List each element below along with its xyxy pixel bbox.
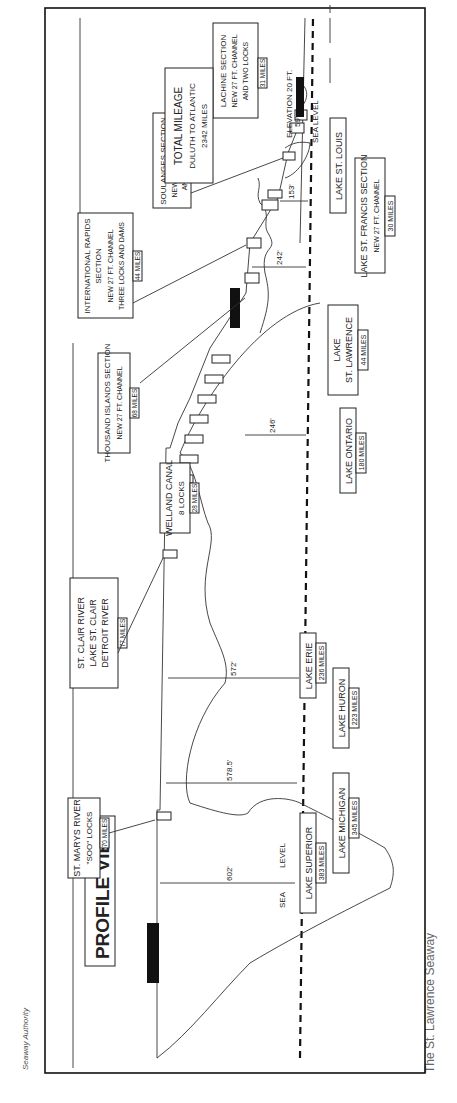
upper-label-welland: WELLAND CANAL 8 LOCKS 28 MILES — [160, 460, 199, 536]
lake-label-st-francis: LAKE ST. FRANCIS SECTION NEW 27 FT. CHAN… — [355, 154, 395, 277]
svg-text:SECTION: SECTION — [94, 248, 103, 284]
svg-text:NEW 27 FT. CHANNEL: NEW 27 FT. CHANNEL — [116, 366, 123, 439]
svg-text:LAKE ST. FRANCIS SECTION: LAKE ST. FRANCIS SECTION — [359, 154, 369, 277]
height-superior: 602' — [225, 866, 234, 881]
lake-label-superior: LAKE SUPERIOR 383 MILES — [300, 813, 326, 913]
credit-text: Seaway Authority — [21, 1007, 30, 1070]
svg-text:LAKE ERIE: LAKE ERIE — [304, 643, 314, 690]
total-mileage-box: TOTAL MILEAGE DULUTH TO ATLANTIC 2342 MI… — [165, 68, 213, 183]
svg-text:"SOO" LOCKS: "SOO" LOCKS — [85, 812, 94, 865]
elevation-label: ELEVATION 20 FT. — [285, 70, 294, 138]
svg-text:180 MILES: 180 MILES — [358, 435, 365, 470]
svg-text:2342 MILES: 2342 MILES — [200, 104, 209, 148]
svg-text:LAKE ST. CLAIR: LAKE ST. CLAIR — [88, 599, 98, 667]
svg-text:LAKE HURON: LAKE HURON — [337, 679, 347, 738]
lake-label-ontario: LAKE ONTARIO 180 MILES — [340, 408, 366, 493]
svg-text:ST. LAWRENCE: ST. LAWRENCE — [344, 317, 354, 383]
svg-text:LAKE SUPERIOR: LAKE SUPERIOR — [304, 826, 314, 899]
ship-icon — [296, 77, 304, 117]
ship-icon — [147, 923, 159, 983]
svg-text:LAKE MICHIGAN: LAKE MICHIGAN — [337, 788, 347, 859]
lake-label-st-louis: LAKE ST. LOUIS — [330, 118, 346, 213]
svg-text:THOUSAND ISLANDS SECTION: THOUSAND ISLANDS SECTION — [103, 343, 112, 462]
svg-text:LAKE ST. LOUIS: LAKE ST. LOUIS — [334, 132, 344, 200]
sea-level-label-right: SEA LEVEL — [311, 100, 320, 143]
height-ontario: 246' — [268, 418, 277, 433]
svg-text:LACHINE SECTION: LACHINE SECTION — [219, 35, 228, 108]
svg-text:44 MILES: 44 MILES — [134, 251, 141, 280]
svg-text:NEW 27 FT. CHANNEL: NEW 27 FT. CHANNEL — [373, 179, 380, 252]
svg-text:LAKE ONTARIO: LAKE ONTARIO — [344, 418, 354, 484]
upper-label-lachine: LACHINE SECTION NEW 27 FT. CHANNEL AND T… — [213, 23, 267, 118]
svg-text:31 MILES: 31 MILES — [259, 58, 266, 87]
svg-text:DETROIT RIVER: DETROIT RIVER — [100, 598, 110, 668]
svg-text:AND TWO LOCKS: AND TWO LOCKS — [242, 41, 249, 100]
landscape-group: PROFILE VIEW 602' 578.5' 572' 246' 242' … — [45, 5, 425, 1073]
svg-text:NEW 27 FT. CHANNEL: NEW 27 FT. CHANNEL — [231, 34, 238, 107]
svg-text:ST. CLAIR RIVER: ST. CLAIR RIVER — [76, 596, 86, 669]
svg-text:INTERNATIONAL RAPIDS: INTERNATIONAL RAPIDS — [83, 218, 92, 313]
height-st-lawrence: 242' — [275, 250, 284, 265]
svg-text:68 MILES: 68 MILES — [131, 388, 138, 417]
svg-text:236 MILES: 236 MILES — [318, 645, 325, 680]
svg-text:LAKE: LAKE — [332, 338, 342, 361]
svg-text:8 LOCKS: 8 LOCKS — [177, 481, 186, 515]
svg-text:44 MILES: 44 MILES — [360, 334, 367, 365]
svg-text:28 MILES: 28 MILES — [191, 483, 198, 512]
height-st-louis: 59' — [293, 116, 302, 127]
lake-label-erie: LAKE ERIE 236 MILES — [300, 633, 326, 698]
upper-label-international-rapids: INTERNATIONAL RAPIDS SECTION NEW 27 FT. … — [78, 213, 246, 318]
svg-text:WELLAND CANAL: WELLAND CANAL — [164, 460, 174, 536]
svg-text:DULUTH TO ATLANTIC: DULUTH TO ATLANTIC — [188, 83, 197, 169]
svg-text:223 MILES: 223 MILES — [351, 690, 358, 725]
seaway-profile-diagram: Seaway Authority The St. Lawrence Seaway — [0, 0, 457, 1103]
svg-text:TOTAL MILEAGE: TOTAL MILEAGE — [173, 87, 184, 165]
height-st-francis: 153' — [287, 184, 296, 199]
svg-text:345 MILES: 345 MILES — [351, 800, 358, 835]
ship-icon — [230, 288, 240, 328]
svg-text:NEW 27 FT. CHANNEL: NEW 27 FT. CHANNEL — [107, 229, 114, 302]
svg-text:383 MILES: 383 MILES — [318, 845, 325, 880]
svg-text:ST. MARYS RIVER: ST. MARYS RIVER — [72, 799, 82, 877]
upper-label-st-clair: ST. CLAIR RIVER LAKE ST. CLAIR DETROIT R… — [70, 558, 163, 688]
svg-text:70 MILES: 70 MILES — [101, 818, 108, 847]
lake-label-st-lawrence: LAKE ST. LAWRENCE 44 MILES — [328, 305, 368, 395]
svg-text:30 MILES: 30 MILES — [387, 200, 394, 231]
height-michigan-huron: 578.5' — [225, 759, 234, 781]
lake-label-michigan: LAKE MICHIGAN 345 MILES — [333, 773, 359, 873]
lake-label-huron: LAKE HURON 223 MILES — [333, 668, 359, 748]
height-erie: 572' — [229, 661, 238, 676]
level-label: LEVEL — [278, 843, 287, 868]
svg-text:THREE LOCKS AND DAMS: THREE LOCKS AND DAMS — [118, 222, 125, 310]
sea-label: SEA — [278, 891, 287, 908]
